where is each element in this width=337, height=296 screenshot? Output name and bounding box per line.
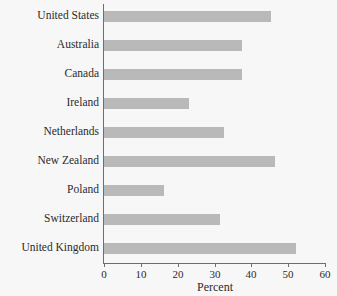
category-label: Ireland [0, 97, 99, 108]
category-label: Poland [0, 184, 99, 195]
bar [104, 69, 242, 80]
x-tick-mark [215, 263, 216, 267]
bar [104, 98, 189, 109]
bar [104, 127, 224, 138]
bar [104, 156, 275, 167]
category-label: United States [0, 10, 99, 21]
bar [104, 40, 242, 51]
x-axis-title: Percent [104, 281, 326, 294]
x-tick-label: 0 [89, 268, 119, 280]
category-label: Australia [0, 39, 99, 50]
category-label: United Kingdom [0, 242, 99, 253]
bar [104, 11, 271, 22]
x-tick-label: 60 [310, 268, 337, 280]
x-axis-line [103, 263, 325, 264]
category-label: New Zealand [0, 155, 99, 166]
bar [104, 185, 164, 196]
category-label: Netherlands [0, 126, 99, 137]
x-tick-mark [325, 263, 326, 267]
x-tick-label: 10 [126, 268, 156, 280]
category-label: Switzerland [0, 213, 99, 224]
x-tick-label: 40 [236, 268, 266, 280]
x-tick-mark [141, 263, 142, 267]
x-tick-mark [251, 263, 252, 267]
category-label: Canada [0, 68, 99, 79]
bar-chart: United StatesAustraliaCanadaIrelandNethe… [0, 0, 337, 296]
x-tick-label: 30 [200, 268, 230, 280]
x-tick-mark [104, 263, 105, 267]
x-tick-mark [288, 263, 289, 267]
x-tick-mark [178, 263, 179, 267]
bar [104, 214, 220, 225]
x-tick-label: 20 [163, 268, 193, 280]
x-tick-label: 50 [273, 268, 303, 280]
bar [104, 243, 296, 254]
